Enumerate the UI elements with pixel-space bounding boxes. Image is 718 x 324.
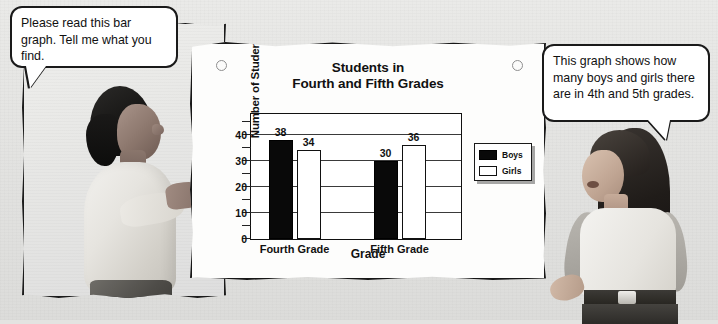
woman-sweater	[84, 162, 176, 294]
girl-belt-buckle	[618, 291, 636, 304]
y-tickmark-minor-45	[242, 121, 251, 122]
chart-title-line-1: Students in	[192, 60, 544, 76]
chart-legend: Boys Girls	[474, 143, 532, 181]
bar-girls-fifth-grade	[402, 145, 426, 239]
chart-title: Students in Fourth and Fifth Grades	[192, 60, 544, 92]
legend-item-girls: Girls	[479, 164, 527, 177]
speech-bubble-woman: Please read this bar graph. Tell me what…	[10, 6, 178, 68]
bar-girls-fourth-grade	[297, 150, 321, 239]
legend-label-girls: Girls	[502, 166, 521, 176]
chart-title-line-2: Fourth and Fifth Grades	[192, 76, 544, 92]
bar-value-label-girls-fifth-grade: 36	[408, 131, 420, 143]
y-tick-label-40: 40	[235, 129, 247, 141]
legend-swatch-boys-icon	[479, 150, 497, 160]
bar-boys-fourth-grade	[269, 140, 293, 239]
legend-item-boys: Boys	[479, 148, 527, 161]
girl-mouth	[587, 181, 599, 188]
girl-jeans	[582, 304, 678, 324]
legend-swatch-girls-icon	[479, 166, 497, 176]
y-tick-label-30: 30	[235, 155, 247, 167]
y-tickmark-minor-25	[242, 173, 251, 174]
bar-boys-fifth-grade	[374, 161, 398, 239]
woman-nose	[152, 124, 164, 135]
bar-graph-card: Students in Fourth and Fifth Grades Numb…	[190, 42, 546, 280]
bar-value-label-boys-fourth-grade: 38	[275, 126, 287, 138]
speech-bubble-woman-tail	[26, 66, 46, 88]
speech-bubble-girl-text: This graph shows how many boys and girls…	[553, 54, 695, 101]
y-tickmark-minor-35	[242, 147, 251, 148]
x-axis-label: Grade	[192, 247, 544, 261]
speech-bubble-girl-tail	[648, 120, 670, 140]
woman-figure	[62, 84, 212, 320]
girl-figure	[560, 128, 710, 320]
y-tick-label-0: 0	[241, 233, 247, 245]
speech-bubble-girl: This graph shows how many boys and girls…	[542, 44, 710, 122]
legend-label-boys: Boys	[502, 150, 523, 160]
bar-value-label-boys-fifth-grade: 30	[380, 147, 392, 159]
y-tickmark-minor-15	[242, 199, 251, 200]
y-tick-label-10: 10	[235, 207, 247, 219]
bar-value-label-girls-fourth-grade: 34	[303, 136, 315, 148]
y-tick-label-20: 20	[235, 181, 247, 193]
speech-bubble-woman-text: Please read this bar graph. Tell me what…	[21, 16, 152, 63]
girl-shirt	[580, 208, 676, 296]
woman-hair-back	[86, 114, 120, 166]
plot-area: Number of Students 0102030403834Fourth G…	[250, 113, 462, 240]
y-tickmark-minor-5	[242, 225, 251, 226]
